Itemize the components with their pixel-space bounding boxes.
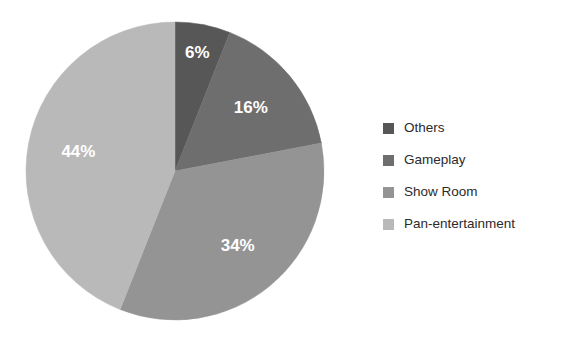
legend-item-label: Others: [404, 121, 445, 135]
legend-item[interactable]: Gameplay: [383, 144, 583, 176]
pie-slice-label: 34%: [221, 236, 255, 255]
pie-slice-label: 16%: [234, 98, 268, 117]
legend-swatch-icon: [383, 219, 394, 230]
legend-item-label: Pan-entertainment: [404, 217, 515, 231]
legend-item-label: Gameplay: [404, 153, 466, 167]
pie-plot-area: 6%16%34%44%: [0, 0, 350, 341]
legend-item[interactable]: Others: [383, 112, 583, 144]
legend: OthersGameplayShow RoomPan-entertainment: [383, 112, 583, 240]
legend-item[interactable]: Show Room: [383, 176, 583, 208]
pie-slice-group: [26, 22, 324, 320]
legend-item-label: Show Room: [404, 185, 478, 199]
pie-chart: 6%16%34%44% OthersGameplayShow RoomPan-e…: [0, 0, 586, 341]
legend-swatch-icon: [383, 155, 394, 166]
pie-svg: 6%16%34%44%: [0, 0, 350, 341]
legend-item[interactable]: Pan-entertainment: [383, 208, 583, 240]
pie-slice-label: 6%: [185, 43, 210, 62]
legend-swatch-icon: [383, 187, 394, 198]
legend-swatch-icon: [383, 123, 394, 134]
pie-slice-label: 44%: [61, 142, 95, 161]
